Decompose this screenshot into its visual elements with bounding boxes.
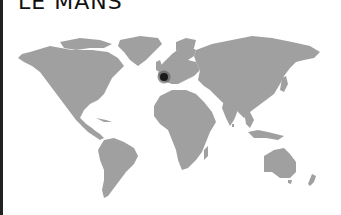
indonesia: [248, 130, 284, 140]
tasmania: [288, 180, 292, 184]
africa: [154, 90, 216, 170]
central-america: [80, 118, 104, 140]
southeast-asia: [244, 112, 254, 128]
greenland: [118, 36, 162, 66]
madagascar: [204, 146, 208, 160]
australia: [264, 148, 296, 178]
new-zealand: [308, 174, 316, 186]
asia: [194, 36, 320, 118]
caribbean: [96, 118, 112, 122]
south-america: [98, 138, 138, 198]
location-marker: [160, 73, 168, 81]
map-card: LE MANS: [0, 0, 341, 215]
sri-lanka: [232, 124, 234, 127]
arctic-islands: [60, 38, 112, 50]
north-america: [18, 46, 124, 132]
world-map: [0, 0, 341, 215]
